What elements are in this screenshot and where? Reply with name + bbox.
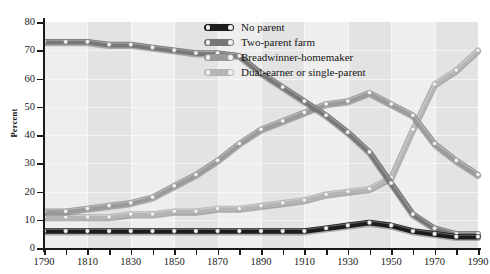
x-axis-tick-label: 1990 xyxy=(457,256,490,268)
data-point xyxy=(107,204,111,208)
y-axis-tick xyxy=(37,163,44,165)
data-point xyxy=(389,102,393,106)
y-axis-tick-label: 80 xyxy=(2,17,35,27)
x-axis-tick xyxy=(131,250,133,255)
data-point xyxy=(433,232,437,236)
legend-swatch-icon xyxy=(204,39,234,46)
x-axis-tick xyxy=(435,250,437,255)
data-point xyxy=(237,141,241,145)
data-point xyxy=(389,181,393,185)
legend-item[interactable]: Breadwinner-homemaker xyxy=(204,50,366,65)
data-point xyxy=(454,68,458,72)
x-axis-tick-label: 1970 xyxy=(414,256,456,268)
data-point xyxy=(433,82,437,86)
x-axis-tick xyxy=(456,250,458,255)
data-point xyxy=(150,229,154,233)
x-axis-tick xyxy=(174,250,176,255)
legend-item[interactable]: No parent xyxy=(204,20,366,35)
data-point xyxy=(259,229,263,233)
x-axis-tick xyxy=(413,250,415,255)
data-point xyxy=(216,206,220,210)
data-point xyxy=(346,130,350,134)
data-point xyxy=(216,229,220,233)
y-axis-tick xyxy=(37,192,44,194)
data-point xyxy=(367,187,371,191)
x-axis-tick xyxy=(109,250,111,255)
data-point xyxy=(194,209,198,213)
y-axis-tick-label: 10 xyxy=(2,215,35,225)
x-axis-tick xyxy=(44,250,46,255)
legend-item-label: Dual-earner or single-parent xyxy=(241,66,366,79)
x-axis-tick-label: 1810 xyxy=(66,256,108,268)
y-axis-tick xyxy=(37,220,44,222)
legend-swatch-icon xyxy=(204,54,234,61)
data-point xyxy=(302,198,306,202)
data-point xyxy=(172,184,176,188)
x-axis-tick xyxy=(391,250,393,255)
legend-item[interactable]: Dual-earner or single-parent xyxy=(204,65,366,80)
x-axis-tick-label: 1910 xyxy=(283,256,325,268)
y-axis-tick xyxy=(37,248,44,250)
x-axis-tick xyxy=(218,250,220,255)
x-axis-tick xyxy=(283,250,285,255)
data-point xyxy=(259,204,263,208)
y-axis-tick-label: 0 xyxy=(2,243,35,253)
series-2 xyxy=(42,91,480,214)
data-point xyxy=(411,113,415,117)
data-point xyxy=(324,102,328,106)
data-point xyxy=(454,235,458,239)
data-point xyxy=(129,212,133,216)
data-point xyxy=(259,127,263,131)
data-point xyxy=(172,229,176,233)
data-point xyxy=(150,212,154,216)
data-point xyxy=(194,51,198,55)
y-axis-tick xyxy=(37,50,44,52)
y-axis-tick-label: 40 xyxy=(2,130,35,140)
series-0 xyxy=(42,220,480,238)
y-axis-tick xyxy=(37,135,44,137)
data-point xyxy=(433,226,437,230)
data-point xyxy=(150,195,154,199)
chart-container: Percent 01020304050607080 17901810183018… xyxy=(0,0,490,274)
x-axis-tick xyxy=(478,250,480,255)
data-point xyxy=(367,220,371,224)
y-axis-tick-label: 20 xyxy=(2,187,35,197)
data-point xyxy=(129,201,133,205)
x-axis-tick xyxy=(370,250,372,255)
data-point xyxy=(216,158,220,162)
legend-item-label: Two-parent farm xyxy=(241,36,315,49)
data-point xyxy=(324,192,328,196)
data-point xyxy=(85,40,89,44)
data-point xyxy=(476,172,480,176)
x-axis-tick xyxy=(326,250,328,255)
data-point xyxy=(64,209,68,213)
x-axis-tick-label: 1950 xyxy=(370,256,412,268)
y-axis-tick-label: 70 xyxy=(2,45,35,55)
data-point xyxy=(107,215,111,219)
data-point xyxy=(281,229,285,233)
x-axis-tick-label: 1830 xyxy=(110,256,152,268)
data-point xyxy=(237,206,241,210)
legend-item-label: No parent xyxy=(241,21,285,34)
data-point xyxy=(454,158,458,162)
y-axis-tick xyxy=(37,107,44,109)
x-axis-tick xyxy=(348,250,350,255)
data-point xyxy=(85,229,89,233)
x-axis-tick-label: 1930 xyxy=(327,256,369,268)
data-point xyxy=(411,229,415,233)
data-point xyxy=(107,229,111,233)
data-point xyxy=(194,172,198,176)
chart-legend: No parentTwo-parent farmBreadwinner-home… xyxy=(200,18,370,82)
x-axis-tick-label: 1890 xyxy=(240,256,282,268)
data-point xyxy=(346,99,350,103)
data-point xyxy=(411,127,415,131)
y-axis-tick xyxy=(37,22,44,24)
data-point xyxy=(194,229,198,233)
x-axis-tick xyxy=(304,250,306,255)
data-point xyxy=(150,45,154,49)
data-point xyxy=(85,206,89,210)
legend-swatch-icon xyxy=(204,24,234,31)
data-point xyxy=(281,119,285,123)
x-axis-tick xyxy=(87,250,89,255)
legend-item[interactable]: Two-parent farm xyxy=(204,35,366,50)
